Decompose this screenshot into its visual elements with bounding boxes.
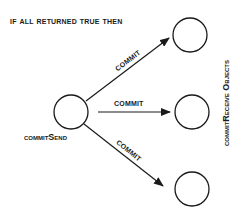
diagram-canvas	[0, 0, 241, 217]
receiver-node-bottom	[175, 172, 209, 206]
receiver-node-top	[173, 18, 207, 52]
receivers-group-label: commitReceive Objects	[221, 53, 231, 153]
edge-label-middle: COMMIT	[114, 100, 144, 107]
condition-title: if all returned true then	[10, 15, 122, 26]
sender-label: commitSend	[24, 132, 67, 142]
sender-node	[54, 95, 88, 129]
edge-to-top	[86, 38, 169, 101]
commit-diagram: if all returned true then commitSend COM…	[0, 0, 241, 217]
receiver-node-middle	[175, 95, 209, 129]
edge-to-bottom	[84, 124, 163, 186]
